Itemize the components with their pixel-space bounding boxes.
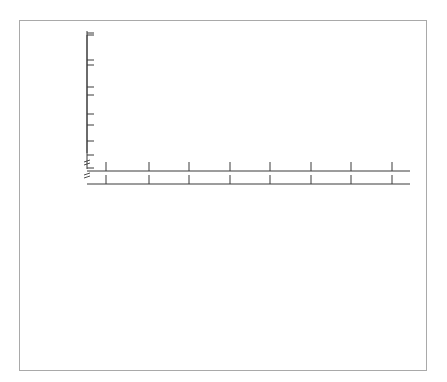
x-axis-skin-conductivity [87,175,410,184]
y-axis-skin-conductivity [84,31,94,178]
y-axis-break-icon [84,173,90,178]
figure-panel [19,20,427,371]
skin-conductivity-svg [20,21,428,212]
chart-skin-conductivity [20,21,428,212]
